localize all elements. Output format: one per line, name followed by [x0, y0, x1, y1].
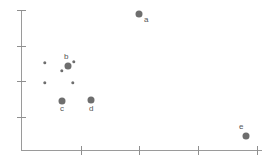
x-axis-tick-3	[257, 146, 258, 155]
data-point-s1-1	[72, 60, 75, 63]
x-axis-tick-0	[81, 146, 82, 155]
data-point-label-e: e	[239, 123, 243, 131]
data-point-s1-4	[71, 81, 74, 84]
y-axis-tick-3	[17, 117, 26, 118]
data-point-s1-0	[43, 61, 46, 64]
data-point-b	[65, 63, 72, 70]
data-point-e	[243, 133, 250, 140]
data-point-label-a: a	[144, 16, 148, 24]
data-point-label-b: b	[64, 53, 68, 61]
data-point-s1-2	[60, 69, 63, 72]
data-point-label-d: d	[89, 105, 93, 113]
y-axis-tick-2	[17, 81, 26, 82]
scatter-plot: abcde	[0, 0, 268, 161]
x-axis-line	[21, 150, 262, 151]
data-point-label-c: c	[60, 105, 64, 113]
data-point-a	[136, 11, 143, 18]
data-point-d	[88, 97, 95, 104]
y-axis-tick-1	[17, 46, 26, 47]
x-axis-tick-2	[198, 146, 199, 155]
x-axis-tick-1	[139, 146, 140, 155]
data-point-s1-3	[43, 81, 46, 84]
y-axis-tick-0	[17, 10, 26, 11]
